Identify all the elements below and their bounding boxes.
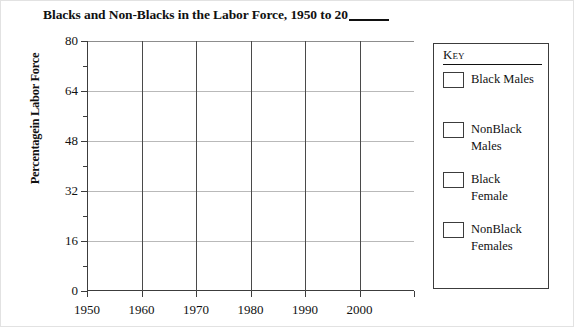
y-tick-minor: [83, 166, 87, 167]
chart-title-blank: [349, 19, 389, 21]
y-tick-major: [81, 141, 88, 142]
gridline-vertical: [305, 41, 306, 291]
x-tick: [196, 291, 197, 297]
legend-item: NonBlack Males: [443, 121, 522, 155]
legend-title: Key: [443, 48, 542, 65]
chart-figure: Blacks and Non-Blacks in the Labor Force…: [0, 0, 574, 327]
legend-item-label: Black Female: [471, 171, 508, 205]
x-tick: [305, 291, 306, 297]
y-axis-title: Percentagein Labor Force: [28, 24, 43, 214]
chart-title-text: Blacks and Non-Blacks in the Labor Force…: [43, 7, 348, 22]
y-tick-major: [81, 91, 88, 92]
legend-item-label: Black Males: [471, 71, 534, 88]
x-tick-label: 1970: [183, 302, 209, 318]
plot-area: 01632486480 195019601970198019902000: [87, 41, 414, 291]
y-tick-major: [81, 191, 88, 192]
x-tick-end: [414, 291, 415, 297]
y-tick-label: 64: [65, 83, 78, 99]
y-tick-minor: [83, 66, 87, 67]
y-tick-label: 16: [65, 233, 78, 249]
chart-title: Blacks and Non-Blacks in the Labor Force…: [1, 7, 431, 23]
gridline-vertical: [196, 41, 197, 291]
legend-swatch-icon: [443, 172, 464, 188]
legend-item: Black Males: [443, 71, 534, 88]
x-tick-label: 1960: [129, 302, 155, 318]
legend-item: NonBlack Females: [443, 221, 522, 255]
y-tick-label: 0: [72, 283, 79, 299]
y-tick-major: [81, 241, 88, 242]
x-tick: [87, 291, 88, 297]
x-tick-label: 1980: [238, 302, 264, 318]
legend-item-label: NonBlack Females: [471, 221, 522, 255]
x-tick-label: 1990: [292, 302, 318, 318]
gridline-vertical: [360, 41, 361, 291]
y-tick-minor: [83, 266, 87, 267]
x-tick-label: 2000: [347, 302, 373, 318]
legend-item-label: NonBlack Males: [471, 121, 522, 155]
x-tick-label: 1950: [74, 302, 100, 318]
x-tick: [142, 291, 143, 297]
legend-swatch-icon: [443, 222, 464, 238]
x-tick: [360, 291, 361, 297]
y-tick-minor: [83, 116, 87, 117]
legend-box: Key Black MalesNonBlack MalesBlack Femal…: [433, 43, 549, 289]
y-tick-label: 32: [65, 183, 78, 199]
y-tick-label: 80: [65, 33, 78, 49]
gridline-vertical: [251, 41, 252, 291]
legend-item: Black Female: [443, 171, 508, 205]
y-tick-label: 48: [65, 133, 78, 149]
x-tick: [251, 291, 252, 297]
y-tick-minor: [83, 216, 87, 217]
gridline-vertical: [142, 41, 143, 291]
legend-swatch-icon: [443, 72, 464, 88]
legend-swatch-icon: [443, 122, 464, 138]
y-tick-major: [81, 41, 88, 42]
